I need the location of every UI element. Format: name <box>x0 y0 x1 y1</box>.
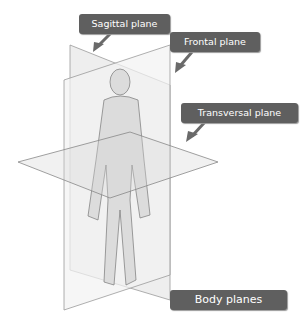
transversal-plane <box>18 132 218 198</box>
body-planes-title: Body planes <box>170 290 287 310</box>
body-planes-diagram <box>0 0 308 334</box>
frontal-plane-label: Frontal plane <box>170 32 260 52</box>
transversal-plane-label: Transversal plane <box>181 103 298 123</box>
sagittal-plane-label: Sagittal plane <box>79 14 170 34</box>
